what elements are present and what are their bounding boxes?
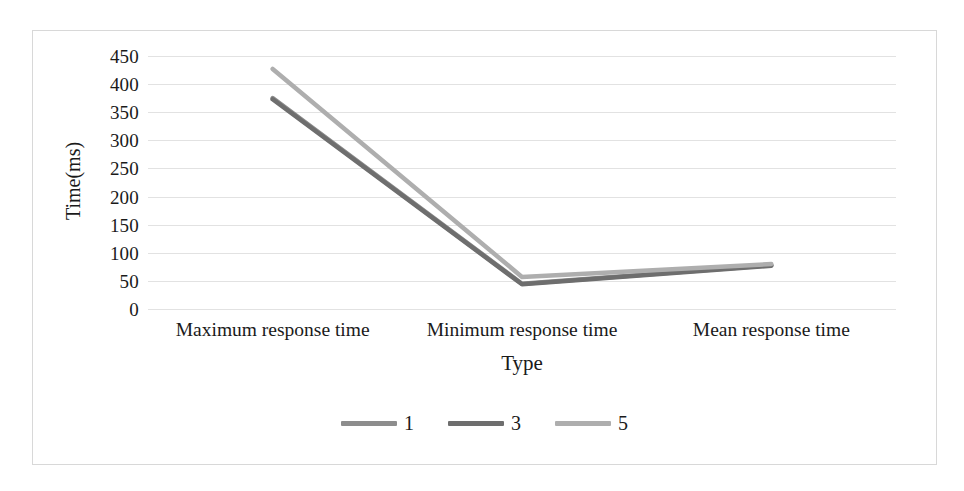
legend-label: 1 bbox=[404, 413, 414, 433]
y-axis-tick-label: 0 bbox=[129, 300, 139, 319]
y-axis-tick-label: 150 bbox=[110, 215, 139, 234]
y-axis-tick-label: 200 bbox=[110, 187, 139, 206]
x-axis-tick-label: Mean response time bbox=[647, 319, 896, 341]
chart-frame: Time(ms) 450400350300250200150100500 Max… bbox=[32, 30, 937, 465]
legend-label: 5 bbox=[618, 413, 628, 433]
legend-item-1[interactable]: 1 bbox=[341, 413, 414, 433]
series-line-3 bbox=[273, 99, 772, 284]
x-axis-tick-label: Maximum response time bbox=[148, 319, 397, 341]
legend-swatch bbox=[448, 421, 504, 426]
y-axis-tick-label: 100 bbox=[110, 243, 139, 262]
legend-label: 3 bbox=[511, 413, 521, 433]
legend-swatch bbox=[555, 421, 611, 426]
x-axis-title: Type bbox=[148, 351, 896, 376]
legend-item-5[interactable]: 5 bbox=[555, 413, 628, 433]
y-axis-tick-label: 350 bbox=[110, 103, 139, 122]
y-axis-tick-label: 450 bbox=[110, 47, 139, 66]
x-axis-tick-labels: Maximum response timeMinimum response ti… bbox=[148, 319, 896, 341]
y-axis-tick-label: 300 bbox=[110, 131, 139, 150]
y-axis-title: Time(ms) bbox=[62, 142, 85, 220]
legend-swatch bbox=[341, 421, 397, 426]
y-axis-tick-label: 400 bbox=[110, 75, 139, 94]
plot-area: 450400350300250200150100500 bbox=[148, 56, 896, 309]
gridline bbox=[148, 309, 896, 310]
x-axis-tick-label: Minimum response time bbox=[397, 319, 646, 341]
y-axis-tick-label: 250 bbox=[110, 159, 139, 178]
y-axis-tick-label: 50 bbox=[120, 271, 139, 290]
series-line-5 bbox=[273, 69, 772, 277]
chart-legend: 135 bbox=[33, 413, 936, 433]
series-lines bbox=[148, 56, 896, 309]
series-line-1 bbox=[273, 98, 772, 284]
legend-item-3[interactable]: 3 bbox=[448, 413, 521, 433]
